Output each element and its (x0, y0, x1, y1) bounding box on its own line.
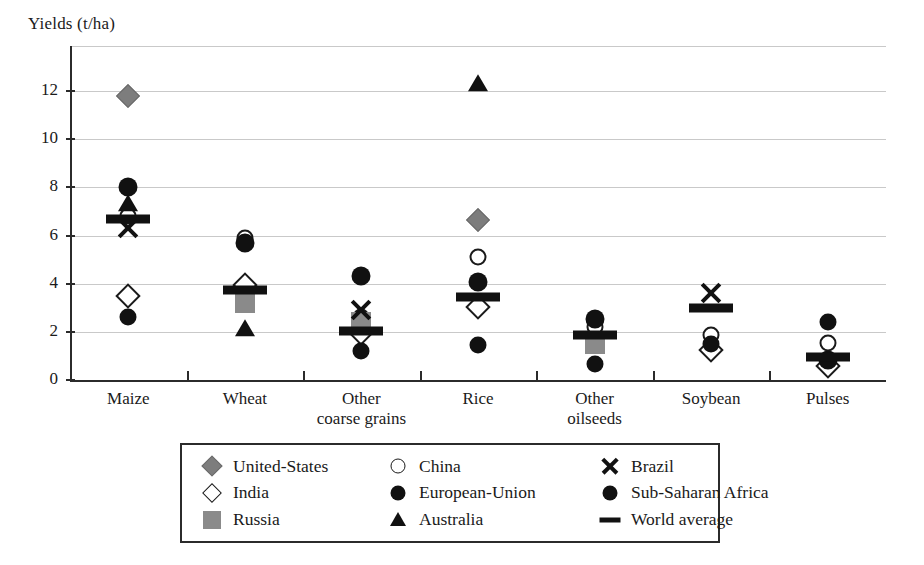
x-axis-category-label-line: oilseeds (536, 409, 653, 429)
legend-item-united-states[interactable]: United-States (200, 455, 386, 477)
gridline (70, 187, 886, 188)
legend-item-india[interactable]: India (200, 482, 386, 504)
data-point-sub-saharan-africa (703, 335, 720, 352)
x-axis-category-label-line: Pulses (769, 389, 886, 409)
x-axis-category-label: Othercoarse grains (303, 389, 420, 429)
bar-icon (598, 509, 622, 531)
gridline (70, 91, 886, 92)
legend: United-StatesChinaBrazilIndiaEuropean-Un… (180, 443, 720, 543)
data-point-world-average (339, 326, 383, 335)
legend-item-sub-saharan-africa[interactable]: Sub-Saharan Africa (598, 482, 769, 504)
legend-item-brazil[interactable]: Brazil (598, 455, 769, 477)
legend-item-european-union[interactable]: European-Union (386, 482, 598, 504)
circle-open-icon (386, 455, 410, 477)
cross-icon (598, 455, 622, 477)
data-point-european-union (585, 309, 604, 328)
y-axis-tick (66, 90, 75, 92)
data-point-world-average (106, 214, 150, 223)
x-axis-category-label-line: coarse grains (303, 409, 420, 429)
square-filled-icon (200, 509, 224, 531)
data-point-sub-saharan-africa (819, 314, 836, 331)
y-axis-tick-label: 4 (8, 273, 58, 293)
data-point-sub-saharan-africa (470, 337, 487, 354)
data-point-australia (118, 194, 138, 211)
y-axis-tick-label: 8 (8, 176, 58, 196)
x-axis-tick (187, 371, 189, 380)
y-axis-tick (66, 331, 75, 333)
y-axis-tick-label: 2 (8, 321, 58, 341)
x-axis-line (70, 380, 886, 382)
y-axis-tick-label: 12 (8, 80, 58, 100)
x-axis-category-label: Soybean (653, 389, 770, 409)
data-point-sub-saharan-africa (353, 343, 370, 360)
gridline (70, 139, 886, 140)
legend-item-label: Sub-Saharan Africa (631, 482, 769, 503)
x-axis-category-label: Maize (70, 389, 187, 409)
legend-item-world-average[interactable]: World average (598, 509, 769, 531)
data-point-brazil (700, 282, 722, 304)
y-axis-tick (66, 186, 75, 188)
data-point-brazil (350, 299, 372, 321)
data-point-united-states (466, 208, 490, 232)
x-axis-category-label-line: Wheat (187, 389, 304, 409)
y-axis-tick (66, 283, 75, 285)
legend-item-china[interactable]: China (386, 455, 598, 477)
y-axis-tick (66, 138, 75, 140)
legend-item-label: Australia (419, 509, 483, 530)
data-point-china (819, 334, 836, 351)
data-point-sub-saharan-africa (120, 309, 137, 326)
x-axis-tick (653, 371, 655, 380)
data-point-australia (468, 74, 488, 91)
triangle-filled-icon (386, 509, 410, 531)
yields-scatter-chart: Yields (t/ha) 024681012MaizeWheatOtherco… (0, 0, 924, 565)
data-point-china (470, 249, 487, 266)
data-point-australia (235, 320, 255, 337)
data-point-european-union (469, 273, 488, 292)
legend-item-label: India (233, 482, 269, 503)
legend-item-russia[interactable]: Russia (200, 509, 386, 531)
data-point-european-union (235, 233, 254, 252)
data-point-russia (235, 293, 255, 313)
x-axis-category-label-line: Soybean (653, 389, 770, 409)
data-point-european-union (352, 267, 371, 286)
data-point-united-states (116, 84, 140, 108)
circle-filled-sm-icon (598, 482, 622, 504)
y-axis-tick-label: 0 (8, 369, 58, 389)
diamond-filled-icon (200, 455, 224, 477)
legend-item-label: Brazil (631, 456, 674, 477)
y-axis-tick (66, 235, 75, 237)
data-point-sub-saharan-africa (586, 356, 603, 373)
y-axis-tick-label: 6 (8, 225, 58, 245)
x-axis-category-label: Wheat (187, 389, 304, 409)
legend-item-label: Russia (233, 509, 280, 530)
x-axis-tick (420, 371, 422, 380)
legend-item-label: World average (631, 509, 733, 530)
legend-item-australia[interactable]: Australia (386, 509, 598, 531)
diamond-open-icon (200, 482, 224, 504)
gridline-top (70, 46, 886, 47)
x-axis-category-label-line: Rice (420, 389, 537, 409)
legend-item-label: United-States (233, 456, 328, 477)
x-axis-category-label-line: Maize (70, 389, 187, 409)
data-point-world-average (456, 292, 500, 301)
x-axis-category-label: Pulses (769, 389, 886, 409)
x-axis-category-label-line: Other (303, 389, 420, 409)
y-axis-tick (66, 379, 75, 381)
circle-filled-icon (386, 482, 410, 504)
x-axis-tick (769, 371, 771, 380)
legend-item-label: China (419, 456, 461, 477)
gridline (70, 236, 886, 237)
x-axis-category-label: Otheroilseeds (536, 389, 653, 429)
data-point-world-average (806, 353, 850, 362)
legend-item-label: European-Union (419, 482, 536, 503)
y-axis-tick-label: 10 (8, 128, 58, 148)
gridline (70, 332, 886, 333)
x-axis-category-label: Rice (420, 389, 537, 409)
x-axis-tick (536, 371, 538, 380)
x-axis-tick (303, 371, 305, 380)
data-point-world-average (689, 303, 733, 312)
x-axis-category-label-line: Other (536, 389, 653, 409)
data-point-india (116, 283, 141, 308)
data-point-world-average (223, 285, 267, 294)
data-point-world-average (573, 331, 617, 340)
